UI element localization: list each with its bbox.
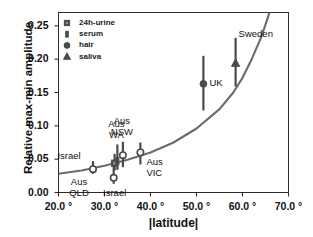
x-tick-label: 20.0 ° bbox=[36, 200, 82, 212]
y-tick-label: 0.00 bbox=[15, 186, 49, 198]
legend-marker-bar bbox=[66, 31, 69, 37]
y-tick-label: 0.10 bbox=[15, 119, 49, 131]
legend-label: saliva bbox=[79, 52, 101, 61]
point-label: AusVIC bbox=[146, 156, 206, 179]
x-tick-label: 40.0 ° bbox=[128, 200, 174, 212]
legend-marker-triangle bbox=[64, 53, 71, 59]
data-marker bbox=[200, 80, 207, 87]
legend-marker-circle bbox=[64, 43, 70, 49]
point-label-line: NSW bbox=[92, 126, 152, 138]
point-label-line: UK bbox=[209, 77, 269, 89]
point-label-line: Aus bbox=[49, 176, 109, 188]
point-label: UK bbox=[209, 77, 269, 89]
x-tick-label: 60.0 ° bbox=[220, 200, 266, 212]
legend-label: 24h-urine bbox=[79, 18, 115, 27]
legend-label: serum bbox=[79, 29, 103, 38]
point-label: Israel bbox=[25, 150, 81, 162]
point-label: Sweden bbox=[239, 28, 299, 40]
point-label: AusNSW bbox=[92, 115, 152, 138]
point-label-line: Aus bbox=[146, 156, 206, 168]
data-marker bbox=[111, 175, 117, 181]
x-axis-title: |latitude| bbox=[58, 216, 289, 230]
x-tick-label: 50.0 ° bbox=[174, 200, 220, 212]
data-marker bbox=[90, 166, 96, 172]
x-tick-label: 30.0 ° bbox=[82, 200, 128, 212]
point-label: Israel bbox=[85, 187, 145, 199]
data-marker bbox=[137, 149, 143, 155]
x-tick-label: 70.0 ° bbox=[266, 200, 312, 212]
point-label-line: Israel bbox=[85, 187, 145, 199]
data-marker bbox=[116, 158, 119, 165]
point-label-line: Israel bbox=[25, 150, 81, 162]
chart-figure: Relative max-min amplitude |latitude| 0.… bbox=[0, 0, 313, 237]
y-tick-label: 0.20 bbox=[15, 52, 49, 64]
legend-marker-square-inner bbox=[66, 22, 68, 24]
data-marker bbox=[120, 152, 126, 158]
point-label-line: VIC bbox=[146, 167, 206, 179]
point-label-line: Aus bbox=[92, 115, 152, 127]
legend-label: hair bbox=[79, 40, 94, 49]
y-axis-ticks bbox=[55, 26, 59, 193]
point-label-line: Sweden bbox=[239, 28, 299, 40]
y-tick-label: 0.25 bbox=[15, 19, 49, 31]
data-marker bbox=[232, 59, 240, 67]
y-tick-label: 0.15 bbox=[15, 86, 49, 98]
